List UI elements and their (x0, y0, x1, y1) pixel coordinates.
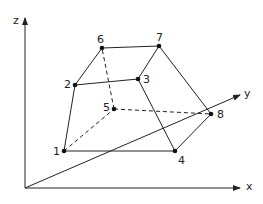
vertices (62, 44, 214, 154)
x-axis-label: x (246, 181, 253, 192)
vertex-4 (173, 149, 178, 154)
vertex-5 (112, 107, 117, 112)
point-label-2: 2 (64, 79, 71, 90)
point-label-4: 4 (178, 155, 185, 166)
point-label-1: 1 (53, 146, 60, 157)
hidden-edges (64, 48, 211, 151)
vertex-7 (157, 44, 162, 49)
vertex-6 (100, 46, 105, 51)
point-label-7: 7 (156, 32, 163, 43)
point-label-8: 8 (217, 109, 224, 120)
visible-edges (64, 46, 211, 151)
vertex-3 (136, 77, 141, 82)
point-label-5: 5 (103, 102, 110, 113)
z-axis-label: z (13, 15, 19, 26)
point-label-3: 3 (143, 74, 150, 85)
vertex-8 (209, 112, 214, 117)
vertex-2 (73, 83, 78, 88)
vertex-1 (62, 149, 67, 154)
y-axis-label: y (244, 88, 251, 99)
point-label-6: 6 (97, 34, 104, 45)
hexahedron-diagram (0, 0, 263, 204)
